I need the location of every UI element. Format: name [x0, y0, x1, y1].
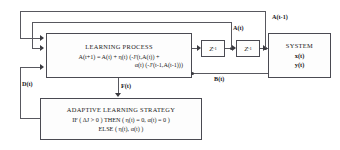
adaptive-strategy-title: ADAPTIVE LEARNING STRATEGY [67, 106, 175, 114]
junction-bt [191, 72, 194, 75]
wire-bt [192, 73, 268, 74]
delay-1-exponent: -1 [213, 46, 217, 51]
learning-process-block: LEARNING PROCESS A(t+1) = A(t) + η(t) (-… [46, 33, 192, 78]
delay-block-2: Z-1 [236, 40, 260, 57]
wire-at-into-lp [32, 48, 41, 49]
arrowhead-strategy-in-ft [115, 93, 121, 97]
delay-2-exponent: -1 [248, 46, 252, 51]
label-a-t-minus-1: A(t-1) [272, 13, 288, 20]
adaptive-learning-strategy-block: ADAPTIVE LEARNING STRATEGY IF ( ΔJ > 0 )… [40, 98, 202, 140]
label-a-t: A(t) [233, 24, 244, 31]
equation-line-2: α(t) (-J'(t-1,A(t-1))) [51, 61, 187, 68]
delay-block-1: Z-1 [201, 40, 225, 57]
system-output-y: y(t) [295, 61, 305, 69]
system-title: SYSTEM [286, 42, 313, 50]
system-output-x: x(t) [295, 52, 305, 60]
adaptive-strategy-rule-line-1: IF ( ΔJ > 0 ) THEN ( η(t) = 0, α(t) = 0 … [72, 116, 170, 123]
wire-dt-into-lp [20, 67, 41, 68]
system-block: SYSTEM x(t) y(t) [268, 33, 331, 78]
label-f-t: F(t) [121, 82, 131, 89]
block-diagram: LEARNING PROCESS A(t+1) = A(t) + η(t) (-… [0, 0, 340, 150]
arrowhead-lp-in-atm1 [40, 35, 44, 41]
label-d-t: D(t) [22, 80, 33, 87]
wire-atm1-down [20, 11, 21, 39]
adaptive-strategy-rule-line-2: ELSE ( η(t), α(t) ) [99, 125, 144, 132]
wire-dt-bottom [20, 118, 40, 119]
wire-dt-up [20, 67, 21, 119]
wire-at-left [32, 22, 231, 23]
equation-line-1: A(t+1) = A(t) + η(t) (-J'(t,A(t)) + [51, 53, 187, 60]
wire-at-up [231, 22, 232, 48]
wire-atm1-into-lp [20, 38, 41, 39]
label-b-t: B(t) [214, 75, 224, 82]
arrowhead-lp-in-dt [40, 64, 44, 70]
arrowhead-delay1-in [197, 45, 201, 51]
wire-at-down [32, 22, 33, 48]
wire-atm1-left [20, 11, 265, 12]
learning-process-title: LEARNING PROCESS [85, 43, 153, 51]
wire-atm1-up [265, 11, 266, 48]
learning-process-equation: A(t+1) = A(t) + η(t) (-J'(t,A(t)) + α(t)… [51, 53, 187, 69]
